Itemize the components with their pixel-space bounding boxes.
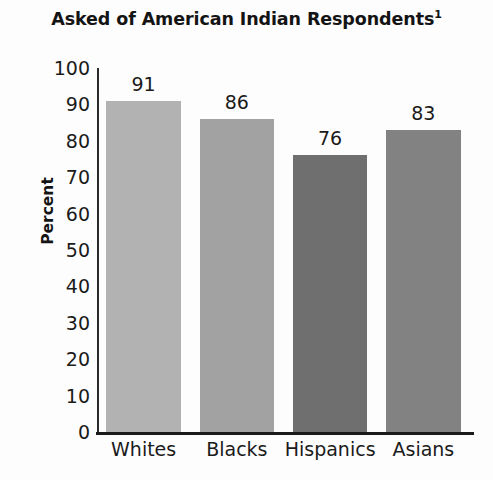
y-axis-tick-10: 10 — [14, 385, 90, 407]
bar-group: 91 — [106, 68, 181, 432]
y-axis-tick-20: 20 — [14, 348, 90, 370]
y-axis-tick-40: 40 — [14, 275, 90, 297]
y-axis-tick-labels: 1009080706050403020100 — [6, 0, 90, 480]
bar-value-label: 86 — [200, 91, 275, 113]
bar-group: 76 — [293, 68, 368, 432]
plot-area: 91867683 — [97, 68, 470, 432]
bar-value-label: 76 — [293, 127, 368, 149]
y-axis-tick-0: 0 — [14, 421, 90, 443]
y-axis-tick-60: 60 — [14, 203, 90, 225]
bar-asians[interactable] — [386, 130, 461, 432]
y-axis-tick-100: 100 — [14, 57, 90, 79]
y-axis-tick-80: 80 — [14, 130, 90, 152]
bar-blacks[interactable] — [200, 119, 275, 432]
y-axis-tick-90: 90 — [14, 93, 90, 115]
x-axis-line — [96, 432, 474, 435]
bar-whites[interactable] — [106, 101, 181, 432]
bar-hispanics[interactable] — [293, 155, 368, 432]
chart-title-footnote-marker: 1 — [434, 8, 442, 21]
bar-value-label: 83 — [386, 102, 461, 124]
y-axis-tick-50: 50 — [14, 239, 90, 261]
x-axis-category-hispanics: Hispanics — [284, 438, 377, 460]
y-axis-tick-70: 70 — [14, 166, 90, 188]
bar-value-label: 91 — [106, 73, 181, 95]
y-axis-tick-30: 30 — [14, 312, 90, 334]
x-axis-category-blacks: Blacks — [190, 438, 283, 460]
bar-chart: Asked of American Indian Respondents1 Pe… — [0, 0, 493, 480]
bar-group: 86 — [200, 68, 275, 432]
chart-title-text: Asked of American Indian Respondents — [51, 9, 434, 29]
bar-group: 83 — [386, 68, 461, 432]
x-axis-category-asians: Asians — [377, 438, 470, 460]
x-axis-category-whites: Whites — [97, 438, 190, 460]
